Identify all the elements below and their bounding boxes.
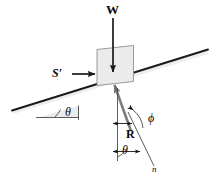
diagram-canvas xyxy=(0,0,216,186)
normal-line-label: n xyxy=(152,165,157,174)
weight-label: W xyxy=(106,3,119,16)
reaction-label: R xyxy=(126,128,135,140)
normal-angle-label: θ xyxy=(122,144,128,156)
physics-force-diagram: W S′ R θ θ ϕ n xyxy=(0,0,216,186)
block xyxy=(97,46,134,86)
friction-angle-label: ϕ xyxy=(148,112,154,124)
incline-angle-label: θ xyxy=(65,106,71,118)
applied-force-label: S′ xyxy=(52,67,62,79)
reaction-arrow xyxy=(115,85,132,131)
